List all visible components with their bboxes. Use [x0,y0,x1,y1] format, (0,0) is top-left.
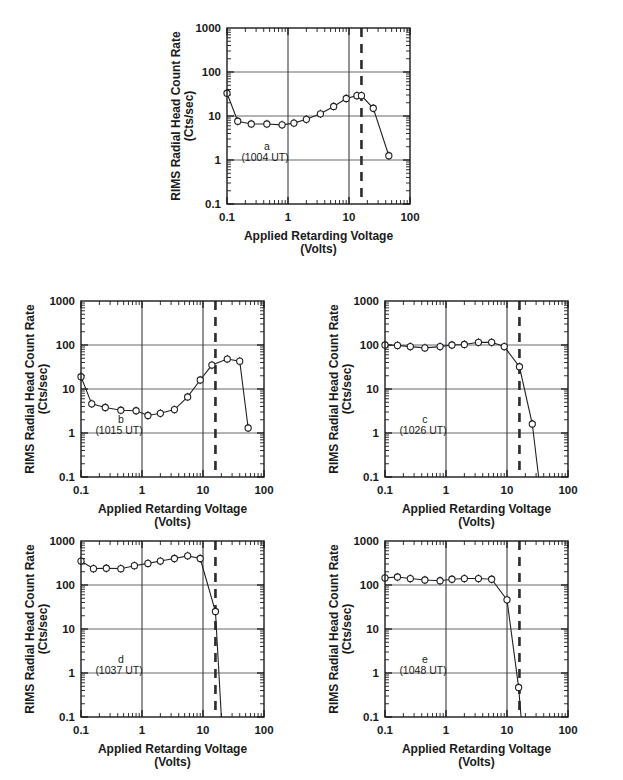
y-tick-label: 1000 [353,535,379,547]
y-tick-label: 100 [360,339,379,351]
x-tick-label: 1 [285,211,292,223]
y-axis-title: RIMS Radial Head Count Rate [327,304,341,474]
y-tick-label: 100 [56,579,75,591]
y-tick-label: 10 [62,623,75,635]
y-tick-label: 10 [62,383,75,395]
x-axis-title: Applied Retarding Voltage [402,742,551,756]
panel-time-label: (1048 UT) [399,664,446,676]
y-axis-title-units: (Cts/sec) [340,604,354,655]
x-tick-label: 100 [400,211,419,223]
x-tick-label: 0.1 [219,211,236,223]
y-axis-title: RIMS Radial Head Count Rate [327,544,341,714]
y-tick-label: 1 [373,427,380,439]
y-axis-title-units: (Cts/sec) [36,604,50,655]
y-axis-title: RIMS Radial Head Count Rate [23,544,37,714]
x-tick-label: 0.1 [377,484,394,496]
y-tick-label: 1 [215,154,222,166]
y-axis-title: RIMS Radial Head Count Rate [23,304,37,474]
panel-time-label: (1004 UT) [241,151,288,163]
x-axis-title: Applied Retarding Voltage [98,502,247,516]
x-tick-label: 10 [501,484,514,496]
x-tick-label: 1 [139,724,146,736]
x-tick-label: 0.1 [73,724,90,736]
x-tick-label: 1 [443,724,450,736]
y-axis-title-units: (Cts/sec) [36,364,50,415]
y-tick-label: 10 [208,110,221,122]
figure-root: 10001001010.10.1110100Applied Retarding … [0,0,623,780]
y-axis-title-units: (Cts/sec) [182,91,196,142]
x-axis-title: Applied Retarding Voltage [98,742,247,756]
x-tick-label: 10 [197,724,210,736]
x-axis-title-units: (Volts) [154,755,190,769]
x-tick-label: 100 [254,484,273,496]
y-tick-label: 100 [360,579,379,591]
panel-b: 10001001010.10.1110100Applied Retarding … [14,285,304,545]
x-axis-title: Applied Retarding Voltage [402,502,551,516]
y-tick-label: 1 [69,667,76,679]
panel-a: 10001001010.10.1110100Applied Retarding … [160,12,450,272]
y-tick-label: 1 [373,667,380,679]
y-tick-label: 1000 [49,535,75,547]
y-tick-label: 100 [202,66,221,78]
y-tick-label: 0.1 [363,471,380,483]
x-tick-label: 10 [343,211,356,223]
x-axis-title-units: (Volts) [300,242,336,256]
y-tick-label: 1000 [49,295,75,307]
panel-c: 10001001010.10.1110100Applied Retarding … [318,285,608,545]
y-tick-label: 1000 [353,295,379,307]
panel-d: 10001001010.10.1110100Applied Retarding … [14,525,304,780]
panel-time-label: (1015 UT) [95,424,142,436]
x-tick-label: 0.1 [73,484,90,496]
x-tick-label: 100 [558,484,577,496]
panel-time-label: (1026 UT) [399,424,446,436]
y-tick-label: 10 [366,623,379,635]
y-axis-title-units: (Cts/sec) [340,364,354,415]
y-tick-label: 0.1 [59,711,76,723]
y-tick-label: 100 [56,339,75,351]
y-tick-label: 10 [366,383,379,395]
x-axis-title: Applied Retarding Voltage [244,229,393,243]
x-tick-label: 10 [501,724,514,736]
x-tick-label: 0.1 [377,724,394,736]
panel-e: 10001001010.10.1110100Applied Retarding … [318,525,608,780]
y-tick-label: 0.1 [205,198,222,210]
y-tick-label: 1000 [195,22,221,34]
y-axis-title: RIMS Radial Head Count Rate [169,31,183,201]
y-tick-label: 1 [69,427,76,439]
panel-time-label: (1037 UT) [95,664,142,676]
x-tick-label: 100 [558,724,577,736]
y-tick-label: 0.1 [363,711,380,723]
x-tick-label: 1 [139,484,146,496]
x-tick-label: 1 [443,484,450,496]
x-tick-label: 100 [254,724,273,736]
y-tick-label: 0.1 [59,471,76,483]
x-axis-title-units: (Volts) [458,755,494,769]
x-tick-label: 10 [197,484,210,496]
